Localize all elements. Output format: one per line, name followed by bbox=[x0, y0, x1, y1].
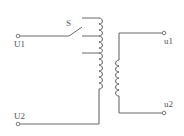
secondary-winding-icon bbox=[116, 33, 119, 113]
input-u2-branch: U2 bbox=[14, 111, 99, 126]
label-u1-out: u1 bbox=[164, 36, 173, 46]
primary-taps bbox=[82, 18, 99, 53]
label-switch-s: S bbox=[66, 18, 71, 28]
terminal-u1-out bbox=[162, 31, 166, 35]
output-u1-branch: u1 bbox=[119, 31, 173, 46]
label-u2-out: u2 bbox=[164, 99, 173, 109]
label-u2: U2 bbox=[14, 111, 25, 121]
circuit-diagram: U1 S U2 u1 u2 bbox=[0, 0, 184, 136]
terminal-u2-out bbox=[162, 111, 166, 115]
terminal-u1 bbox=[16, 34, 20, 38]
primary-winding-icon bbox=[99, 18, 102, 124]
terminal-u2 bbox=[16, 122, 20, 126]
label-u1: U1 bbox=[14, 39, 25, 49]
input-u1-branch: U1 S bbox=[14, 18, 82, 49]
switch-blade bbox=[69, 27, 82, 36]
output-u2-branch: u2 bbox=[119, 99, 173, 115]
